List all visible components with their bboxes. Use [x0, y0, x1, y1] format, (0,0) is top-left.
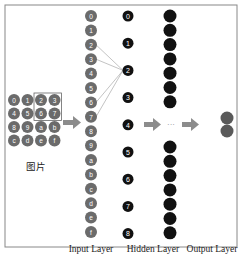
input-node: 6	[85, 96, 97, 108]
svg-text:d: d	[89, 200, 93, 207]
svg-text:6: 6	[39, 110, 43, 117]
svg-text:2: 2	[126, 67, 130, 74]
hidden-node: 5	[123, 147, 134, 158]
input-node: c	[85, 183, 97, 195]
neural-network-diagram: 0123456789abcdef 0123456789abcdef 012345…	[0, 0, 242, 258]
grid-cell: d	[22, 135, 34, 147]
deep-node	[164, 155, 177, 168]
arrow-deep-to-output	[182, 118, 199, 131]
svg-text:e: e	[89, 214, 93, 221]
svg-text:3: 3	[89, 56, 93, 63]
deep-node	[164, 141, 177, 154]
svg-text:0: 0	[12, 97, 16, 104]
input-node: 7	[85, 111, 97, 123]
deep-node	[164, 67, 177, 80]
hidden-node: 8	[123, 228, 134, 239]
deep-node	[164, 212, 177, 225]
image-caption: 图片	[26, 161, 46, 172]
input-node: 4	[85, 68, 97, 80]
svg-text:8: 8	[89, 128, 93, 135]
input-node: 0	[85, 10, 97, 22]
output-layer-nodes	[221, 112, 234, 138]
input-node: 8	[85, 125, 97, 137]
input-layer-label: Input Layer	[69, 244, 114, 254]
svg-text:0: 0	[89, 13, 93, 20]
arrow-image-to-input	[63, 116, 81, 129]
deep-node	[164, 198, 177, 211]
image-grid: 0123456789abcdef	[8, 93, 62, 147]
svg-text:5: 5	[26, 110, 30, 117]
svg-text:7: 7	[126, 203, 130, 210]
input-node: b	[85, 168, 97, 180]
svg-text:a: a	[39, 124, 43, 131]
hidden-layer-nodes: 012345678	[123, 11, 134, 240]
svg-text:7: 7	[53, 110, 57, 117]
svg-text:9: 9	[89, 142, 93, 149]
grid-cell: c	[8, 135, 20, 147]
hidden-node: 0	[123, 11, 134, 22]
svg-text:4: 4	[12, 110, 16, 117]
output-layer-label: Output Layer	[187, 244, 239, 254]
grid-cell: a	[35, 121, 47, 133]
input-node: 1	[85, 24, 97, 36]
ellipsis: ···	[167, 120, 175, 129]
deep-node	[164, 226, 177, 239]
svg-text:f: f	[54, 137, 56, 144]
input-layer-nodes: 0123456789abcdef	[85, 10, 97, 238]
grid-cell: e	[35, 135, 47, 147]
svg-text:6: 6	[89, 99, 93, 106]
svg-text:6: 6	[126, 176, 130, 183]
connection-line	[96, 45, 123, 71]
input-node: e	[85, 212, 97, 224]
svg-text:b: b	[89, 171, 93, 178]
input-node: f	[85, 226, 97, 238]
hidden-layer-label: Hidden Layer	[127, 244, 180, 254]
output-node	[221, 112, 234, 125]
grid-cell: 7	[49, 108, 61, 120]
svg-text:a: a	[89, 157, 93, 164]
svg-text:e: e	[39, 137, 43, 144]
grid-cell: 3	[49, 94, 61, 106]
hidden-node: 2	[123, 65, 134, 76]
hidden-node: 4	[123, 119, 134, 130]
svg-text:0: 0	[126, 13, 130, 20]
grid-cell: f	[49, 135, 61, 147]
svg-text:3: 3	[126, 94, 130, 101]
deep-node	[164, 169, 177, 182]
grid-cell: 4	[8, 108, 20, 120]
grid-cell: 9	[22, 121, 34, 133]
grid-cell: 1	[22, 94, 34, 106]
svg-text:f: f	[90, 229, 92, 236]
svg-text:1: 1	[26, 97, 30, 104]
svg-text:2: 2	[39, 97, 43, 104]
deep-node	[164, 10, 177, 23]
input-node: d	[85, 197, 97, 209]
svg-text:1: 1	[126, 40, 130, 47]
connection-lines	[96, 45, 123, 117]
svg-text:5: 5	[126, 149, 130, 156]
connection-line	[96, 70, 123, 102]
hidden-node: 1	[123, 38, 134, 49]
connection-line	[96, 59, 123, 70]
hidden-node: 7	[123, 201, 134, 212]
grid-cell: 5	[22, 108, 34, 120]
grid-cell: 0	[8, 94, 20, 106]
svg-text:5: 5	[89, 85, 93, 92]
deep-node	[164, 24, 177, 37]
svg-text:2: 2	[89, 42, 93, 49]
input-node: 3	[85, 53, 97, 65]
deep-node	[164, 38, 177, 51]
hidden-node: 6	[123, 174, 134, 185]
grid-cell: b	[49, 121, 61, 133]
svg-text:7: 7	[89, 114, 93, 121]
svg-text:4: 4	[126, 122, 130, 129]
grid-cell: 6	[35, 108, 47, 120]
input-node: 5	[85, 82, 97, 94]
grid-cell: 8	[8, 121, 20, 133]
svg-text:1: 1	[89, 27, 93, 34]
svg-text:b: b	[53, 124, 57, 131]
arrow-hidden-to-deep	[144, 118, 161, 131]
output-node	[221, 125, 234, 138]
svg-text:9: 9	[26, 124, 30, 131]
input-node: a	[85, 154, 97, 166]
